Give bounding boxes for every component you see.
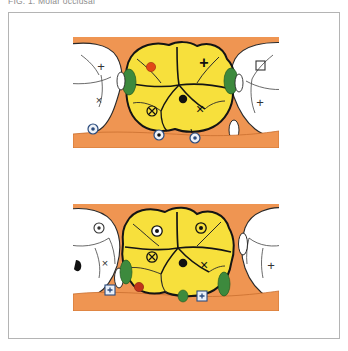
boxed-plus-marker-left xyxy=(105,285,115,295)
panel-lower-molar-occlusal: × + xyxy=(73,204,279,311)
boxed-plus-marker-right xyxy=(197,291,207,301)
circled-cross-marker xyxy=(147,106,157,116)
black-dot-marker xyxy=(179,259,188,268)
distal-contact-marker xyxy=(218,272,230,296)
red-dot-marker xyxy=(134,282,143,291)
circled-dot-marker-3 xyxy=(190,133,200,143)
circled-cross-marker xyxy=(147,252,157,262)
plus-marker: + xyxy=(199,54,208,71)
red-dot-marker xyxy=(146,62,155,71)
upper-molar-diagram: + × + xyxy=(73,37,279,148)
buccal-contact-marker xyxy=(178,290,188,302)
mesial-contact-marker xyxy=(120,260,132,284)
central-molar-crown: + × xyxy=(117,42,243,132)
circled-dot-marker-crown-left xyxy=(152,226,162,236)
cross-marker-left-tooth: × xyxy=(102,257,108,269)
cross-marker-left: × xyxy=(96,94,102,106)
right-root-tip xyxy=(239,233,248,255)
circled-dot-marker-1 xyxy=(88,124,98,134)
lower-molar-diagram: × + xyxy=(73,204,279,311)
circled-dot-marker-crown-right xyxy=(196,223,206,233)
cross-marker-right: × xyxy=(196,101,204,117)
circled-dot-marker-left-tooth xyxy=(94,223,104,233)
circled-dot-marker-2 xyxy=(154,130,164,140)
cross-marker-crown: × xyxy=(200,257,208,273)
plus-marker-far-right: + xyxy=(256,95,264,110)
left-contact-highlight xyxy=(117,72,125,90)
right-adjacent-tooth: + xyxy=(229,43,279,140)
right-contact-highlight xyxy=(235,74,243,92)
figure-frame: + × + xyxy=(8,12,340,339)
plus-marker-right-tooth: + xyxy=(267,258,275,273)
plus-marker-left: + xyxy=(97,59,105,74)
panel-upper-molar-occlusal: + × + xyxy=(73,37,279,148)
figure-caption: FIG. 1. Molar occlusal xyxy=(8,0,95,8)
black-dot-marker xyxy=(179,95,187,103)
